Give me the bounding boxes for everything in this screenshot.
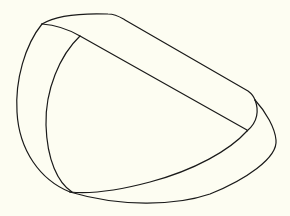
right-corner-arc: [247, 100, 257, 131]
figure-canvas: [0, 0, 290, 216]
top-back-edge: [42, 14, 255, 100]
wedge-solid-drawing: [0, 0, 290, 216]
top-front-edge: [42, 24, 247, 130]
outer-bottom-curve: [70, 100, 276, 203]
left-outer-arc: [17, 24, 70, 192]
front-bottom-curve: [70, 131, 247, 193]
left-inner-arc: [46, 36, 80, 192]
